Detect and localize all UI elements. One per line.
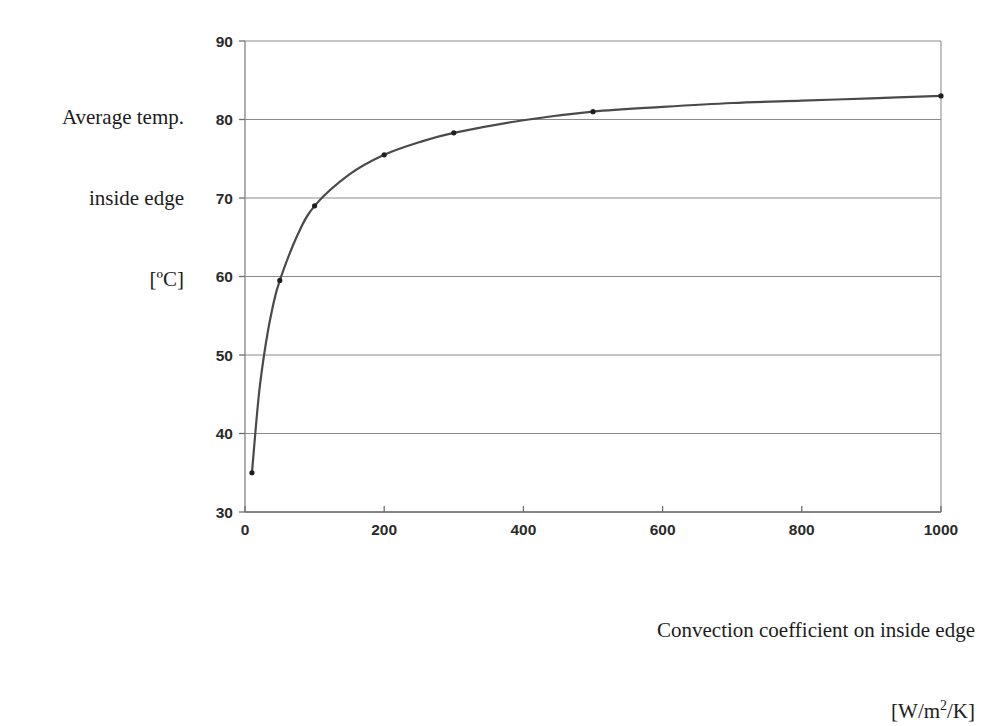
x-axis-title-line-1: Convection coefficient on inside edge: [455, 617, 975, 644]
x-tick-label: 1000: [924, 521, 958, 538]
x-tick-label: 200: [371, 521, 397, 538]
y-tick-label: 70: [216, 190, 233, 207]
y-tick-label: 60: [216, 268, 233, 285]
x-tick-label: 800: [789, 521, 815, 538]
series-line: [252, 96, 941, 473]
x-axis-title: Convection coefficient on inside edge [W…: [455, 563, 975, 726]
y-tick-label: 30: [216, 504, 233, 521]
data-point-marker: [938, 93, 943, 98]
y-tick-label: 80: [216, 111, 233, 128]
x-axis-ticks: [245, 506, 941, 512]
x-tick-label: 400: [510, 521, 536, 538]
x-tick-labels: 02004006008001000: [241, 521, 959, 538]
y-tick-labels: 30405060708090: [216, 33, 233, 521]
data-point-marker: [312, 203, 317, 208]
data-point-markers: [249, 93, 943, 475]
x-axis-unit-exponent: 2: [940, 698, 947, 713]
x-axis-unit-suffix: /K]: [947, 699, 975, 723]
data-point-marker: [249, 470, 254, 475]
y-tick-label: 40: [216, 425, 233, 442]
x-axis-unit-prefix: [W/m: [891, 699, 940, 723]
y-tick-label: 50: [216, 347, 233, 364]
data-point-marker: [277, 278, 282, 283]
data-point-marker: [382, 152, 387, 157]
x-axis-title-line-2: [W/m2/K]: [455, 698, 975, 725]
data-series: [252, 96, 941, 473]
x-tick-label: 600: [650, 521, 676, 538]
data-point-marker: [451, 130, 456, 135]
data-point-marker: [590, 109, 595, 114]
x-tick-label: 0: [241, 521, 250, 538]
y-axis-ticks: [239, 41, 245, 512]
y-tick-label: 90: [216, 33, 233, 50]
